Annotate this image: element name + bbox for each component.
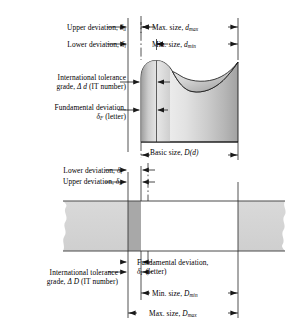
hole-right-plate [238,201,286,251]
shaft-left-lobe-shade [141,61,170,143]
label-tolerance-grade-hole: International tolerancegrade, Δ D (IT nu… [8,268,118,287]
label-lower-deviation-shaft: Lower deviation, δl [22,40,126,52]
label-fundamental-deviation-shaft: Fundamental deviation, δF (letter) [18,103,126,124]
hole-tolerance-band [128,201,141,251]
label-upper-deviation-shaft: Upper deviation, δu [22,23,126,35]
label-fundamental-deviation-hole: Fundamental deviation,δF (letter) [137,258,257,279]
label-upper-deviation-hole: Upper deviation, δu [14,177,122,189]
hole-body-group [63,201,286,251]
label-basic-size: Basic size, D(d) [150,148,199,157]
label-tolerance-grade-shaft: International tolerancegrade, Δ d (IT nu… [18,73,126,92]
label-max-size-hole: Max. size, Dmax [149,309,197,321]
label-max-size-shaft: Max. size, dmax [152,23,198,35]
label-min-size-shaft: Min. size, dmin [152,40,196,52]
shaft-body-group [141,61,238,143]
label-lower-deviation-hole: Lower deviation, δl [18,166,122,178]
label-min-size-hole: Min. size, Dmin [152,289,198,301]
hole-left-plate [63,201,128,251]
